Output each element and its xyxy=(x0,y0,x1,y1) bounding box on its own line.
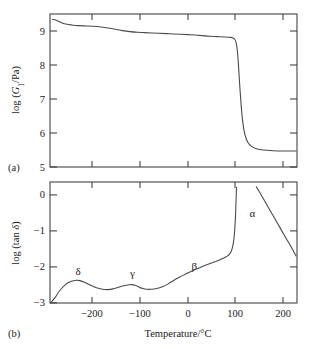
panel-a-ytick-5: 5 xyxy=(40,162,45,173)
peak-label-alpha: α xyxy=(250,207,256,219)
x-axis-label: Temperature/°C xyxy=(144,328,211,339)
xtick-minus100: −100 xyxy=(129,308,151,319)
panel-a-frame xyxy=(50,14,297,167)
panel-a-label: (a) xyxy=(8,162,20,174)
panel-b-y-axis-label: log (tan δ) xyxy=(10,221,22,265)
panel-b-frame xyxy=(50,182,297,303)
dma-figure: 5 6 7 8 9 log (G1/Pa) (a) xyxy=(0,0,310,349)
xtick-minus200: −200 xyxy=(81,308,103,319)
panel-b-ytick-minus1: −1 xyxy=(34,225,45,236)
panel-a-ytick-7: 7 xyxy=(40,94,45,105)
panel-b: 0 −1 −2 −3 −200 −100 0 100 200 log (tan … xyxy=(8,182,297,340)
panel-b-x-ticks xyxy=(92,182,283,303)
panel-a-ytick-8: 8 xyxy=(40,60,45,71)
tan-delta-alpha-branch xyxy=(256,187,296,256)
peak-label-gamma: γ xyxy=(129,267,135,279)
peak-label-delta: δ xyxy=(75,265,80,277)
xtick-200: 200 xyxy=(275,308,291,319)
panel-a-ytick-6: 6 xyxy=(40,128,45,139)
tan-delta-curve xyxy=(51,187,236,302)
figure-canvas: 5 6 7 8 9 log (G1/Pa) (a) xyxy=(0,0,310,349)
panel-b-label: (b) xyxy=(8,328,21,340)
panel-a-y-ticks xyxy=(50,31,297,167)
panel-b-ytick-minus3: −3 xyxy=(34,297,45,308)
panel-a-ytick-9: 9 xyxy=(40,26,45,37)
panel-b-y-ticks xyxy=(50,195,297,303)
xtick-100: 100 xyxy=(227,308,243,319)
panel-b-ytick-0: 0 xyxy=(40,189,45,200)
panel-b-ytick-minus2: −2 xyxy=(34,261,45,272)
panel-a: 5 6 7 8 9 log (G1/Pa) (a) xyxy=(8,14,297,174)
storage-modulus-curve xyxy=(52,19,296,151)
xtick-0: 0 xyxy=(185,308,190,319)
panel-a-y-axis-label: log (G1/Pa) xyxy=(10,66,26,114)
panel-a-x-ticks xyxy=(92,14,283,167)
